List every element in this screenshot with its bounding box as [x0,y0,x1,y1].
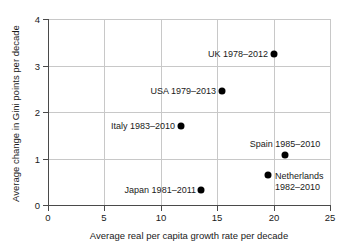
gridline-x-25 [330,19,331,205]
x-tick-0 [48,206,49,211]
gridline-x-15 [217,19,218,205]
x-ticklabel-20: 20 [259,212,289,223]
y-tick-4 [43,19,48,20]
y-tick-2 [43,112,48,113]
gridline-x-5 [104,19,105,205]
x-axis-line [48,205,331,206]
data-label-italy: Italy 1983–2010 [111,121,175,132]
data-point-usa [219,88,226,95]
data-label-netherlands-line1: Netherlands [275,171,324,181]
gridline-x-10 [161,19,162,205]
data-point-japan [198,187,205,194]
x-ticklabel-5: 5 [89,212,119,223]
x-tick-25 [330,206,331,211]
data-label-netherlands: Netherlands 1982–2010 [275,171,324,192]
data-label-netherlands-line2: 1982–2010 [275,181,320,191]
y-axis-line [48,19,49,206]
x-ticklabel-10: 10 [146,212,176,223]
gridline-y-1 [48,159,330,160]
x-ticklabel-15: 15 [202,212,232,223]
y-axis-label: Average change in Gini points per decade [10,21,21,207]
x-ticklabel-0: 0 [33,212,63,223]
x-tick-10 [161,206,162,211]
x-ticklabel-25: 25 [315,212,345,223]
data-label-usa: USA 1979–2013 [150,86,216,97]
data-label-uk: UK 1978–2012 [208,49,268,60]
gridline-y-4 [48,19,330,20]
data-point-uk [271,51,278,58]
y-tick-1 [43,159,48,160]
scatter-chart: 0 1 2 3 4 0 5 10 15 20 25 Average real p… [0,0,355,252]
data-point-spain [282,152,289,159]
data-label-spain: Spain 1985–2010 [250,139,321,150]
x-tick-20 [274,206,275,211]
gridline-y-2 [48,112,330,113]
y-tick-3 [43,66,48,67]
data-label-japan: Japan 1981–2011 [125,185,196,196]
x-axis-label: Average real per capita growth rate per … [48,230,330,241]
data-point-italy [178,123,185,130]
gridline-y-3 [48,66,330,67]
data-point-netherlands [265,172,272,179]
x-tick-15 [217,206,218,211]
x-tick-5 [104,206,105,211]
